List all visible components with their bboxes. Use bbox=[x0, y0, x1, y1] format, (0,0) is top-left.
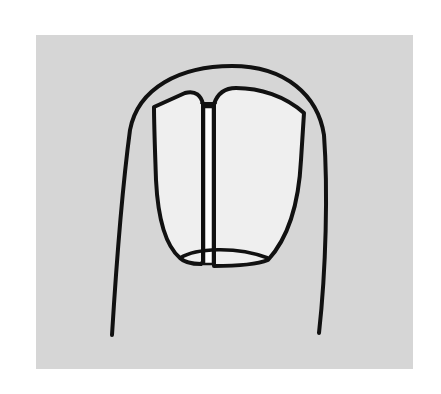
nail-split-groove bbox=[204, 107, 213, 264]
fingertip-nail-illustration bbox=[0, 0, 441, 394]
nail-plate-left bbox=[154, 92, 203, 264]
nail-plate-right bbox=[214, 88, 304, 266]
